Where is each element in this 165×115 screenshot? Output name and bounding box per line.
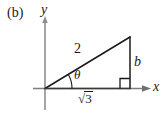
horizontal-leg-label: √3 — [78, 91, 93, 105]
y-axis-label: y — [41, 3, 47, 17]
figure-container: (b) y x 2 b θ √3 — [0, 0, 165, 115]
y-axis — [42, 16, 48, 110]
x-axis-arrowhead-icon — [142, 85, 151, 92]
radicand-value: 3 — [84, 91, 93, 105]
y-axis-arrowhead-icon — [42, 16, 48, 23]
angle-arc — [68, 75, 72, 89]
x-axis-label: x — [153, 80, 159, 94]
panel-label: (b) — [7, 6, 23, 20]
hypotenuse-length-label: 2 — [74, 42, 81, 56]
right-triangle — [45, 37, 130, 89]
vertical-leg-label: b — [134, 55, 141, 69]
angle-theta-label: θ — [74, 68, 80, 81]
right-angle-marker-icon — [120, 79, 130, 89]
radical-expression: √3 — [78, 91, 93, 105]
triangle-hypotenuse — [45, 37, 130, 89]
